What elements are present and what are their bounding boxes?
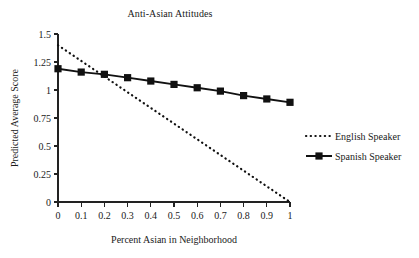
y-tick-label: 0: [46, 197, 51, 208]
y-tick-label: 0.5: [39, 141, 52, 152]
x-tick-label: 0.3: [121, 210, 134, 221]
x-tick-label: 0.4: [145, 210, 158, 221]
y-axis-ticks: 00.250.50.7511.251.5: [34, 29, 59, 208]
x-axis-ticks: 00.10.20.30.40.50.60.70.80.91: [56, 202, 293, 221]
y-axis-title: Predicted Average Score: [9, 68, 20, 167]
x-tick-label: 0.2: [98, 210, 111, 221]
series-marker: [54, 65, 61, 72]
series-marker: [78, 68, 85, 75]
x-tick-label: 0.5: [168, 210, 181, 221]
series-marker: [124, 74, 131, 81]
series-marker: [101, 71, 108, 78]
series-marker: [217, 88, 224, 95]
y-tick-label: 0.25: [34, 169, 52, 180]
x-tick-label: 0.1: [75, 210, 88, 221]
x-tick-label: 1: [288, 210, 293, 221]
chart-plot-area: 00.250.50.7511.251.5 00.10.20.30.40.50.6…: [0, 0, 419, 258]
series-line-1: [58, 45, 290, 202]
x-tick-label: 0.8: [237, 210, 250, 221]
chart-figure: Anti-Asian Attitudes 00.250.50.7511.251.…: [0, 0, 419, 258]
y-tick-label: 1.25: [34, 57, 52, 68]
series-marker: [286, 99, 293, 106]
series-marker: [240, 92, 247, 99]
x-tick-label: 0: [56, 210, 61, 221]
y-tick-label: 1: [46, 85, 51, 96]
series-marker: [147, 77, 154, 84]
x-axis-title: Percent Asian in Neighborhood: [111, 234, 237, 245]
y-tick-label: 1.5: [39, 29, 52, 40]
x-tick-label: 0.7: [214, 210, 227, 221]
series-marker: [263, 95, 270, 102]
y-tick-label: 0.75: [34, 113, 52, 124]
series-marker: [194, 84, 201, 91]
legend-label-2: Spanish Speaker: [335, 151, 402, 162]
x-tick-label: 0.6: [191, 210, 204, 221]
legend-marker-2: [315, 152, 322, 159]
series-marker: [170, 81, 177, 88]
chart-series-group: [54, 45, 293, 202]
chart-legend: English SpeakerSpanish Speaker: [306, 131, 402, 162]
legend-label-1: English Speaker: [335, 131, 401, 142]
x-tick-label: 0.9: [261, 210, 274, 221]
